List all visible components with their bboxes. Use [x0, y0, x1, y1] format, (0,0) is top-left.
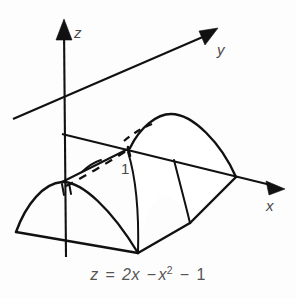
surface-fill-region: [130, 114, 236, 253]
x-axis-arrowhead: [266, 181, 285, 195]
z-axis: [56, 19, 72, 257]
equation-lhs: z: [90, 266, 98, 283]
bottom-front-edge: [16, 232, 138, 253]
bottom-right-edge: [138, 223, 190, 253]
z-axis-line: [64, 28, 66, 257]
equation-minus-1: −: [145, 266, 159, 283]
z-axis-label: z: [74, 25, 82, 40]
equation-term-2-exponent: 2: [167, 265, 173, 276]
z-axis-arrowhead: [56, 19, 72, 40]
y-axis-label: y: [217, 42, 225, 57]
hidden-parabola-dashed: [66, 150, 128, 186]
y-axis-arrowhead: [199, 28, 218, 45]
vertex-ruling-edge: [62, 148, 130, 182]
equation-caption: z = 2x −x2 − 1: [0, 266, 296, 284]
equation-minus-2: −: [178, 266, 192, 283]
y-axis-line: [13, 33, 212, 119]
hatch-mark-1: [62, 184, 64, 195]
equation-equals: =: [103, 266, 117, 283]
left-inner-arc: [82, 160, 101, 172]
equation-term-1: 2x: [122, 266, 140, 283]
y-axis: [13, 28, 218, 119]
figure-container: z y x 1 z = 2x −x2 − 1: [0, 0, 296, 299]
surface-body: [130, 114, 236, 253]
surface-diagram-canvas: [0, 0, 296, 299]
x-axis-tick-label-one: 1: [121, 161, 129, 176]
x-axis-label: x: [266, 198, 274, 213]
equation-term-3: 1: [196, 266, 205, 283]
equation-term-2-base: x: [158, 266, 166, 283]
